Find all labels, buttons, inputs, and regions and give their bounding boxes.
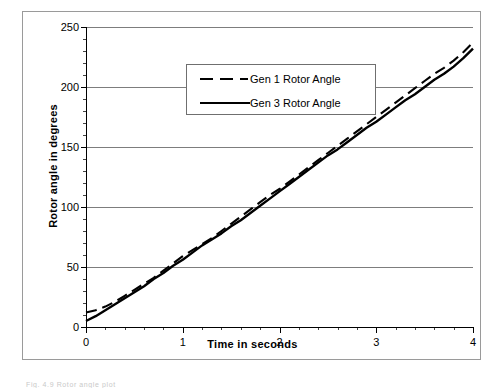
legend: Gen 1 Rotor Angle Gen 3 Rotor Angle [186,64,376,115]
x-tick-label-2: 2 [276,336,282,348]
plot-area: 050100150200250 01234 Gen 1 Rotor Angle [86,27,473,327]
legend-label-gen-3: Gen 3 Rotor Angle [250,97,341,109]
y-tick-label-250: 250 [61,21,79,33]
y-tick-label-100: 100 [61,201,79,213]
legend-entry-gen-3: Gen 3 Rotor Angle [187,90,375,115]
legend-entry-gen-1: Gen 1 Rotor Angle [187,66,375,91]
y-axis-title: Rotor angle in degrees [47,76,59,256]
legend-swatch-solid [198,97,250,109]
x-tick-label-0: 0 [83,336,89,348]
y-tick-label-50: 50 [67,261,79,273]
y-tick-label-150: 150 [61,141,79,153]
x-tick-major-4 [473,327,474,333]
figure-frame: Rotor angle in degrees Time in seconds 0… [22,11,481,360]
legend-swatch-dashed [198,73,250,85]
y-tick-label-0: 0 [73,321,79,333]
x-axis-line [86,327,473,328]
x-axis-title: Time in seconds [23,338,482,350]
x-tick-label-4: 4 [470,336,476,348]
x-tick-label-1: 1 [180,336,186,348]
x-tick-label-3: 3 [373,336,379,348]
legend-label-gen-1: Gen 1 Rotor Angle [250,73,341,85]
caption-fragment: Fig. 4.9 Rotor angle plot [26,381,116,388]
y-tick-label-200: 200 [61,81,79,93]
